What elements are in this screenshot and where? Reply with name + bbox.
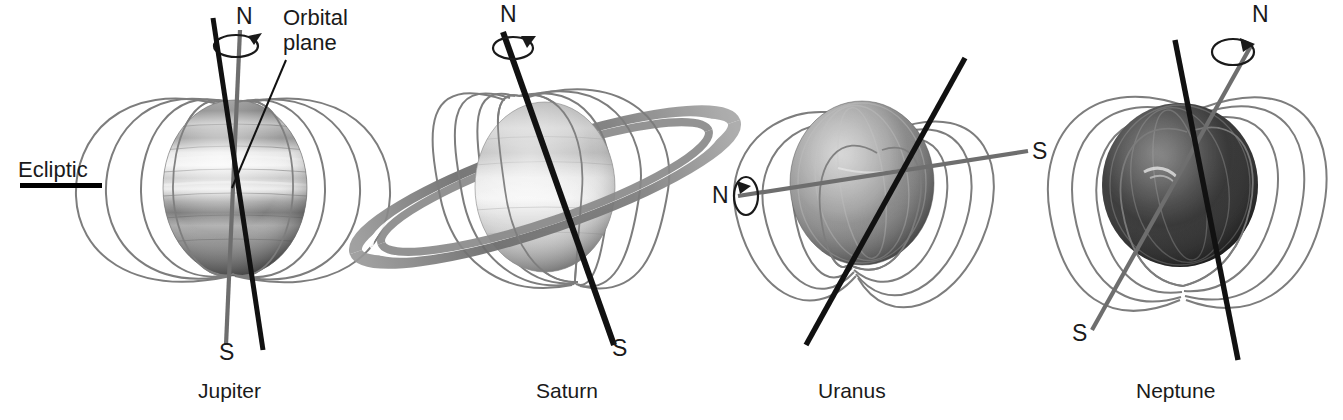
saturn-north-label: N	[500, 2, 517, 28]
neptune-sphere	[1102, 100, 1258, 270]
uranus-north-label: N	[712, 183, 729, 209]
panel-neptune	[1048, 38, 1327, 360]
neptune-north-label: N	[1252, 2, 1269, 28]
jupiter-planet-label: Jupiter	[198, 379, 261, 403]
neptune-planet-label: Neptune	[1136, 379, 1215, 403]
uranus-south-label: S	[1032, 139, 1047, 165]
diagram-canvas	[0, 0, 1343, 420]
orbital-plane-label-line1: Orbital	[283, 6, 348, 31]
panel-saturn	[343, 32, 747, 345]
neptune-south-label: S	[1072, 321, 1087, 347]
jupiter-north-label: N	[236, 4, 253, 30]
jupiter-south-label: S	[219, 340, 234, 366]
saturn-planet-label: Saturn	[536, 379, 598, 403]
panel-uranus	[734, 58, 1028, 345]
ecliptic-bar	[20, 183, 102, 188]
uranus-planet-label: Uranus	[818, 379, 886, 403]
saturn-south-label: S	[612, 336, 627, 362]
orbital-plane-label-line2: plane	[283, 31, 337, 56]
ecliptic-label: Ecliptic	[18, 158, 88, 183]
planetary-magnetic-field-figure: Ecliptic Orbital plane N S Jupiter N S S…	[0, 0, 1343, 420]
